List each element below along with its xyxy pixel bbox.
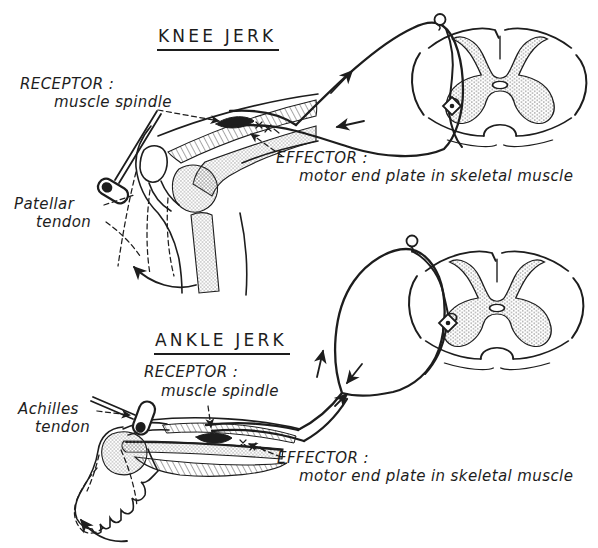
ankle-jerk-illustration — [74, 236, 583, 542]
knee-effector-label: EFFECTOR : — [276, 150, 368, 167]
afferent-arrow-icon — [317, 351, 323, 377]
ankle-effector-label: EFFECTOR : — [277, 450, 369, 467]
ankle-jerk-title: ANKLE JERK — [154, 330, 290, 355]
reflex-diagram-page: KNEE JERK RECEPTOR : muscle spindle EFFE… — [0, 0, 598, 548]
patellar-tendon-label-line1: Patellar — [14, 196, 74, 213]
knee-receptor-value: muscle spindle — [54, 94, 172, 111]
achilles-tendon-label-line1: Achilles — [18, 401, 79, 418]
knee-leg-drawing — [136, 94, 318, 295]
muscle-spindle-ankle — [196, 433, 232, 443]
heel-bone — [102, 432, 147, 475]
kick-movement-arrow-icon — [134, 267, 196, 287]
spinal-cord-cross-section-top — [412, 28, 586, 146]
afferent-arrow-icon — [331, 71, 352, 93]
direction-arrows-top — [331, 71, 364, 127]
patellar-tendon-label-line2: tendon — [36, 214, 91, 231]
plantarflex-movement-arrow-icon — [81, 520, 127, 541]
patella — [140, 146, 167, 182]
nerve-balloon-top — [296, 23, 463, 156]
ankle-leg-drawing — [75, 418, 300, 534]
tibia-bone — [191, 213, 219, 293]
ankle-receptor-value: muscle spindle — [161, 383, 279, 400]
nerve-balloon-bottom — [335, 249, 444, 396]
knee-jerk-title: KNEE JERK — [157, 26, 279, 51]
achilles-tendon-label-line2: tendon — [35, 419, 90, 436]
ankle-effector-value: motor end plate in skeletal muscle — [299, 468, 573, 485]
reflex-hammer-ankle-icon — [91, 397, 157, 437]
efferent-arrow-icon — [337, 121, 364, 127]
calf-muscle-lower — [135, 457, 287, 476]
ankle-receptor-label: RECEPTOR : — [144, 364, 238, 381]
afferent-fiber-top — [446, 29, 453, 99]
knee-effector-value: motor end plate in skeletal muscle — [299, 168, 573, 185]
knee-receptor-label: RECEPTOR : — [20, 76, 114, 93]
efferent-arrow-icon — [347, 364, 362, 383]
receptor-leader-top — [158, 110, 219, 121]
